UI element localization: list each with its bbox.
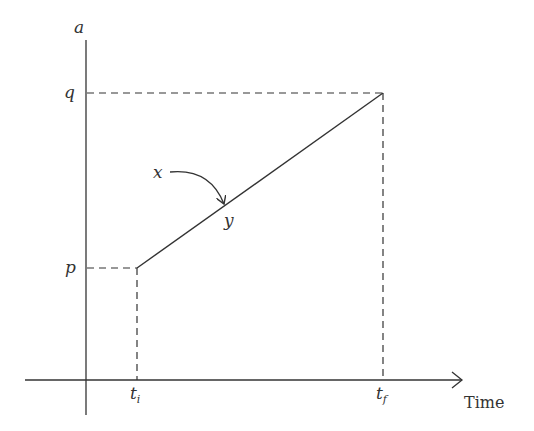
x-axis-label: Time [464, 393, 504, 412]
trajectory-line [137, 93, 383, 268]
pointer-arrow [170, 172, 224, 204]
tick-label-q: q [64, 82, 75, 102]
diagram-canvas: a q p x y ti tf Time [0, 0, 534, 431]
y-axis-label: a [74, 17, 84, 37]
tick-label-tf: tf [376, 383, 389, 406]
tick-label-p: p [65, 257, 76, 277]
point-label-x: x [153, 162, 163, 182]
tick-label-ti: ti [130, 383, 140, 406]
line-label-y: y [223, 210, 234, 230]
